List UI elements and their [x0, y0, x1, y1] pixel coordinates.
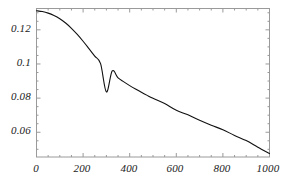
x-tick-label-200: 200 [68, 163, 96, 174]
axis-ticks [37, 9, 270, 158]
y-tick-label-0.06: 0.06 [0, 125, 31, 136]
y-tick-label-0.08: 0.08 [0, 91, 31, 102]
x-tick-label-1000: 1000 [252, 163, 284, 174]
chart-figure: 0.12 0.1 0.08 0.06 0 200 400 600 800 100… [0, 0, 296, 185]
x-tick-label-0: 0 [22, 163, 50, 174]
x-tick-label-600: 600 [161, 163, 189, 174]
y-tick-label-0.12: 0.12 [0, 23, 31, 34]
x-tick-label-400: 400 [115, 163, 143, 174]
data-line-curve [37, 11, 270, 154]
x-tick-label-800: 800 [208, 163, 236, 174]
plot-canvas [0, 0, 296, 185]
plot-frame [37, 9, 270, 158]
y-tick-label-0.1: 0.1 [0, 57, 31, 68]
